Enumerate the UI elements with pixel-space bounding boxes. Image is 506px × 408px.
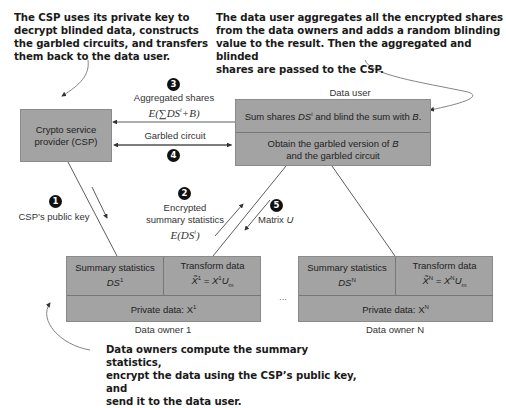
step-3-badge: 3 [167,78,180,91]
sum-shares-step: Sum shares DSi and blind the sum with B. [236,100,430,133]
text: m [229,283,234,289]
text: E(DS [170,229,194,241]
callout-line: the garbled circuits, and transfers [14,37,214,50]
callout-line: decrypt blinded data, constructs [14,24,214,37]
data-owner-n-caption: Data owner N [345,324,445,336]
callout-line: send it to the data user. [106,395,366,408]
text: DS1 [107,274,124,289]
summary-statistics-cell: Summary statistics DSN [299,257,396,296]
data-owner-1-caption: Data owner 1 [113,324,213,336]
text: Sum shares [245,112,298,123]
garbled-step: Obtain the garbled version of B and the … [236,133,430,166]
text: m [462,283,467,289]
text: +B) [182,107,200,119]
callout-line: value to the result. Then the aggregated… [216,37,506,63]
text: E(DSi) [140,226,230,241]
private-data-cell: Private data: X1 [67,296,260,322]
data-owner-n-box: Summary statistics DSN Transform data X̃… [298,256,493,322]
text: Private data: X [131,305,193,316]
text: U [287,214,294,225]
data-user-box: Sum shares DSi and blind the sum with B.… [235,99,431,166]
csp-callout: The CSP uses its private key to decrypt … [14,11,214,63]
text: and blind the sum with [313,112,413,123]
data-user-callout: The data user aggregates all the encrypt… [216,11,506,76]
text: Private data: XN [362,301,429,316]
text: DS [107,278,120,289]
text: Private data: X [362,305,424,316]
step-2-label: Encrypted summary statistics E(DSi) [140,202,230,241]
step-5-badge: 5 [270,199,283,212]
callout-line: shares are passed to the CSP. [216,63,506,76]
transform-data-cell: Transform data X̃N = XNUm [396,257,493,296]
callout-line: from the data owners and adds a random b… [216,24,506,37]
step-2-badge: 2 [178,187,191,200]
step-1-badge: 1 [49,195,62,208]
text: DSN [338,274,356,289]
text: DS [298,112,311,123]
text: B [392,138,398,149]
text: summary statistics [140,214,230,226]
text: N [351,277,355,283]
garbled-text-line1: Obtain the garbled version of B [268,138,399,150]
text: Summary statistics [307,262,387,274]
sum-shares-text: Sum shares DSi and blind the sum with B. [245,108,422,123]
callout-line: encrypt the data using the CSP’s public … [106,369,366,395]
text: N [424,304,428,310]
text: Matrix [258,214,287,225]
csp-label: provider (CSP) [35,136,98,148]
text: U [222,276,229,287]
data-owners-callout: Data owners compute the summary statisti… [106,343,366,408]
text: E(∑DSi+B) [118,104,230,119]
text: Aggregated shares [118,92,230,104]
text: E(∑DS [148,107,180,119]
data-owner-1-box: Summary statistics DS1 Transform data X̃… [66,256,261,322]
step-1-label: CSP’s public key [14,211,94,223]
garbled-text-line2: and the garbled circuit [286,150,379,162]
text: X̃1 = X1Um [191,272,233,291]
text: 1 [120,277,123,283]
callout-line: them back to the data user. [14,50,214,63]
private-data-cell: Private data: XN [299,296,492,322]
text: U [455,276,462,287]
step-4-badge: 4 [167,149,180,162]
callout-line: The data user aggregates all the encrypt… [216,11,506,24]
text: = X [201,276,218,287]
text: Private data: X1 [131,301,197,316]
step-3-label: Aggregated shares E(∑DSi+B) [118,92,230,119]
csp-label: Crypto service [36,124,97,136]
text: Encrypted [140,202,230,214]
text: ) [196,229,200,241]
text: Obtain the garbled version of [268,138,393,149]
text: DS [338,278,351,289]
step-5-label: Matrix U [258,214,308,226]
text: . [419,112,422,123]
text: Transform data [180,260,244,272]
text: = X [433,276,450,287]
transform-data-cell: Transform data X̃1 = X1Um [164,257,261,296]
ellipsis: ... [273,291,293,303]
csp-box: Crypto service provider (CSP) [20,109,112,162]
step-4-label: Garbled circuit [130,130,220,142]
text: X̃N = XNUm [422,272,466,291]
data-user-title: Data user [300,87,400,99]
text: Transform data [412,260,476,272]
callout-line: Data owners compute the summary statisti… [106,343,366,369]
summary-statistics-cell: Summary statistics DS1 [67,257,164,296]
text: Summary statistics [75,262,155,274]
text: 1 [193,304,196,310]
callout-line: The CSP uses its private key to [14,11,214,24]
